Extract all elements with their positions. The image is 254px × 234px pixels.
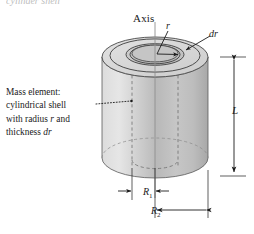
axis-label: Axis <box>133 11 155 25</box>
callout-line-1: Mass element: <box>6 86 98 99</box>
callout-line-2: cylindrical shell <box>6 99 98 112</box>
mass-element-leader-dot <box>130 100 132 102</box>
thickness-label: dr <box>209 28 218 41</box>
mass-element-callout: Mass element: cylindrical shell with rad… <box>6 86 98 139</box>
callout-line-4-var: dr <box>43 127 51 137</box>
callout-line-3: with radius r and <box>6 113 98 126</box>
radius-label: r <box>166 20 170 33</box>
inner-radius-label: R1 <box>143 186 153 201</box>
callout-line-3-post: and <box>54 114 70 124</box>
length-label: L <box>232 103 238 117</box>
callout-line-3-pre: with radius <box>6 114 50 124</box>
callout-line-4-pre: thickness <box>6 127 43 137</box>
inner-radius-subscript: 1 <box>149 192 153 200</box>
outer-radius-label: R2 <box>151 205 161 220</box>
outer-radius-subscript: 2 <box>157 211 161 219</box>
callout-line-4: thickness dr <box>6 126 98 139</box>
